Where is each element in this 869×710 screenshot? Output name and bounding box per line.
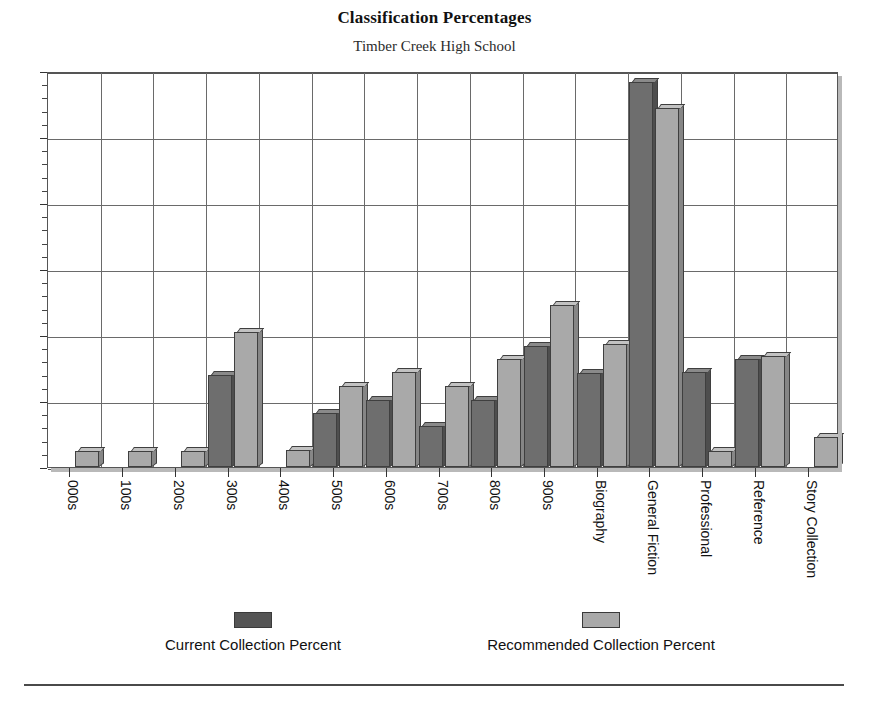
legend-label: Current Collection Percent	[165, 636, 341, 653]
x-axis-label: General Fiction	[645, 480, 661, 575]
y-axis-tick-minor	[42, 310, 47, 311]
bar-face	[208, 375, 232, 467]
chart-title: Classification Percentages	[0, 8, 869, 28]
bar-recommended	[286, 450, 310, 467]
y-axis-tick-major	[40, 468, 47, 469]
bar-recommended	[234, 332, 258, 467]
bar-face	[445, 386, 469, 467]
bar-face	[181, 451, 205, 467]
x-axis-label: 600s	[382, 480, 398, 510]
x-axis-tick	[175, 468, 176, 477]
footer-rule	[24, 684, 844, 686]
y-axis-tick-major	[40, 204, 47, 205]
y-axis-tick-minor	[42, 442, 47, 443]
x-axis-label: 900s	[540, 480, 556, 510]
x-axis-label: 100s	[118, 480, 134, 510]
bar-face	[471, 400, 495, 467]
x-axis-tick	[597, 468, 598, 477]
bar-face	[286, 450, 310, 467]
bar-face	[603, 344, 627, 467]
x-axis-tick	[333, 468, 334, 477]
x-axis-tick	[491, 468, 492, 477]
bar-recommended	[761, 356, 785, 467]
x-axis-tick	[702, 468, 703, 477]
x-axis-label: 300s	[224, 480, 240, 510]
bar-current	[366, 400, 390, 467]
x-axis-tick	[122, 468, 123, 477]
y-axis-tick-minor	[42, 415, 47, 416]
bar-recommended	[655, 108, 679, 467]
y-axis-tick-minor	[42, 428, 47, 429]
x-axis-label: 200s	[171, 480, 187, 510]
bar-recommended	[814, 437, 838, 467]
y-axis-tick-minor	[42, 230, 47, 231]
y-axis-tick-major	[40, 138, 47, 139]
bar-current	[524, 346, 548, 467]
bar-face	[366, 400, 390, 467]
bar-current	[313, 413, 337, 467]
bar-face	[735, 359, 759, 467]
y-axis-tick-minor	[42, 191, 47, 192]
x-axis-tick	[386, 468, 387, 477]
bar-face	[814, 437, 838, 467]
bar-face	[313, 413, 337, 467]
bar-face	[682, 372, 706, 467]
y-axis-tick-minor	[42, 112, 47, 113]
y-axis-tick-minor	[42, 283, 47, 284]
x-axis-tick	[439, 468, 440, 477]
y-axis-tick-minor	[42, 151, 47, 152]
x-axis-label: Reference	[751, 480, 767, 545]
y-axis-tick-minor	[42, 125, 47, 126]
bar-face	[550, 305, 574, 467]
gridline-horizontal	[48, 271, 837, 272]
y-axis-tick-minor	[42, 455, 47, 456]
x-axis-label: 000s	[65, 480, 81, 510]
y-axis-tick-minor	[42, 257, 47, 258]
bar-face	[497, 359, 521, 467]
y-axis-tick-major	[40, 402, 47, 403]
y-axis-tick-major	[40, 336, 47, 337]
y-axis-tick-minor	[42, 296, 47, 297]
y-axis-tick-minor	[42, 178, 47, 179]
legend-swatch-current	[234, 612, 272, 628]
y-axis-tick-minor	[42, 349, 47, 350]
bar-recommended	[181, 451, 205, 467]
legend-swatch-recommended	[582, 612, 620, 628]
bar-face	[419, 426, 443, 467]
y-axis-tick-minor	[42, 85, 47, 86]
gridline-horizontal	[48, 73, 837, 74]
x-axis-label: 500s	[329, 480, 345, 510]
gridline-horizontal	[48, 403, 837, 404]
gridline-vertical	[206, 73, 207, 467]
bar-current	[208, 375, 232, 467]
bar-face	[761, 356, 785, 467]
bar-recommended	[550, 305, 574, 467]
x-axis-tick	[808, 468, 809, 477]
x-axis-tick	[755, 468, 756, 477]
x-axis-tick	[228, 468, 229, 477]
x-axis-tick	[280, 468, 281, 477]
x-axis-label: Story Collection	[804, 480, 820, 578]
legend-label: Recommended Collection Percent	[487, 636, 715, 653]
x-axis-tick	[649, 468, 650, 477]
plot-shadow-right	[838, 76, 842, 472]
plot-area	[47, 72, 838, 468]
y-axis-tick-major	[40, 72, 47, 73]
bar-recommended	[128, 451, 152, 467]
bar-face	[577, 373, 601, 467]
bar-recommended	[392, 372, 416, 467]
bar-recommended	[445, 386, 469, 467]
y-axis-tick-minor	[42, 244, 47, 245]
bar-recommended	[603, 344, 627, 467]
gridline-vertical	[153, 73, 154, 467]
bar-face	[629, 82, 653, 467]
y-axis-tick-minor	[42, 362, 47, 363]
bar-face	[234, 332, 258, 467]
bar-side	[785, 352, 790, 467]
bar-recommended	[708, 451, 732, 467]
bar-recommended	[497, 359, 521, 467]
bar-side	[258, 328, 263, 467]
y-axis-tick-minor	[42, 323, 47, 324]
bar-current	[735, 359, 759, 467]
x-axis-label: Biography	[593, 480, 609, 543]
